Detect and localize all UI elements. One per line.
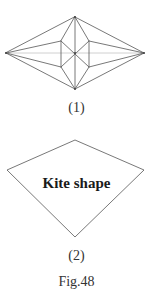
crease-left-upper: [6, 41, 61, 53]
panel-1-label: (1): [0, 101, 153, 115]
vertex-top-dot: [74, 16, 76, 18]
vertex-center-dot: [74, 52, 76, 54]
vertex-bottom-dot: [74, 88, 76, 90]
vertex-right-dot: [143, 52, 145, 54]
crease-left-lower: [6, 53, 61, 67]
vertex-left-dot: [5, 52, 7, 54]
crease-right-lower: [89, 53, 144, 67]
crease-right-upper: [89, 41, 144, 53]
crease-pattern-diagram: [5, 16, 145, 90]
figure-caption: Fig.48: [0, 275, 153, 289]
kite-shape-text: Kite shape: [0, 176, 153, 191]
panel-2-label: (2): [0, 249, 153, 263]
